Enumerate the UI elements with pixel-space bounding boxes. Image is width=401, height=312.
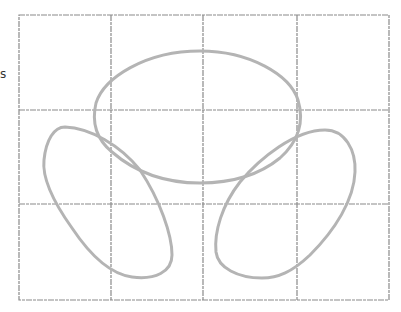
grid: [19, 15, 389, 300]
grid-border: [19, 15, 389, 300]
sketch-canvas: [0, 0, 401, 312]
top-loop: [94, 51, 300, 183]
